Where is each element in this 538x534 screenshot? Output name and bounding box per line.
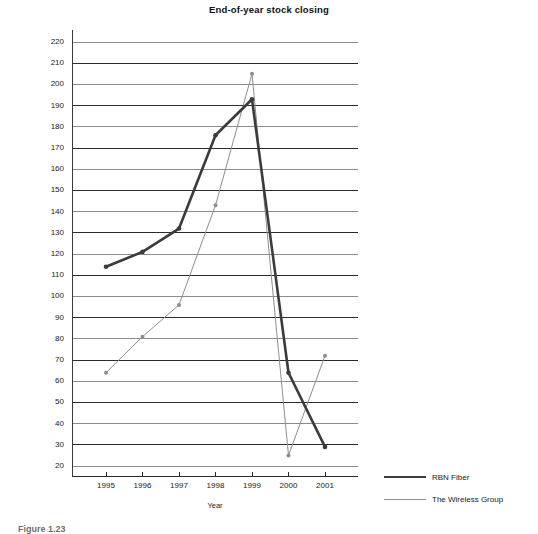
y-axis-tick-50: 50 <box>34 398 64 406</box>
y-axis-tick-70: 70 <box>34 356 64 364</box>
y-axis-tick-20: 20 <box>34 462 64 470</box>
y-axis-tick-100: 100 <box>34 292 64 300</box>
x-axis-tick-1996: 1996 <box>123 482 163 490</box>
y-axis-tick-30: 30 <box>34 441 64 449</box>
x-axis-title: Year <box>0 501 430 510</box>
chart-title: End-of-year stock closing <box>0 4 538 15</box>
y-axis-tick-120: 120 <box>34 250 64 258</box>
figure-caption: Figure 1.23 <box>18 524 66 534</box>
y-axis-tick-220: 220 <box>34 38 64 46</box>
y-axis-tick-160: 160 <box>34 165 64 173</box>
y-axis-tick-210: 210 <box>34 59 64 67</box>
y-axis-tick-40: 40 <box>34 420 64 428</box>
x-axis-tick-2000: 2000 <box>269 482 309 490</box>
legend-line-swatch-icon <box>384 472 426 482</box>
legend-item-series-1[interactable]: The Wireless Group <box>384 488 538 510</box>
y-axis-tick-90: 90 <box>34 314 64 322</box>
y-axis-tick-80: 80 <box>34 335 64 343</box>
y-axis-tick-130: 130 <box>34 229 64 237</box>
y-axis-tick-180: 180 <box>34 123 64 131</box>
chart-legend: RBN Fiber The Wireless Group <box>384 466 538 510</box>
x-axis-tick-1998: 1998 <box>196 482 236 490</box>
legend-label-series-0: RBN Fiber <box>426 473 469 482</box>
y-axis-tick-140: 140 <box>34 208 64 216</box>
chart-plot-svg <box>72 30 360 478</box>
legend-line-swatch-icon <box>384 494 426 504</box>
y-axis-tick-150: 150 <box>34 186 64 194</box>
y-axis-tick-170: 170 <box>34 144 64 152</box>
x-axis-tick-1999: 1999 <box>232 482 272 490</box>
y-axis-tick-110: 110 <box>34 271 64 279</box>
x-axis-tick-1995: 1995 <box>86 482 126 490</box>
plot-area <box>72 30 360 478</box>
legend-label-series-1: The Wireless Group <box>426 495 503 504</box>
x-axis-tick-1997: 1997 <box>159 482 199 490</box>
x-axis-tick-2001: 2001 <box>305 482 345 490</box>
legend-item-series-0[interactable]: RBN Fiber <box>384 466 538 488</box>
y-axis-tick-190: 190 <box>34 102 64 110</box>
y-axis-tick-60: 60 <box>34 377 64 385</box>
y-axis-tick-200: 200 <box>34 80 64 88</box>
